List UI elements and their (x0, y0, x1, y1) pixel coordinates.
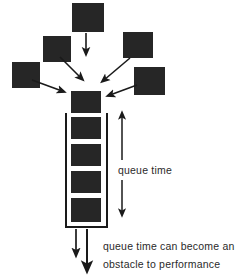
source-box-lower-right (134, 67, 165, 95)
obstacle-caption-line-2: obstacle to performance (103, 258, 220, 271)
queue-time-diagram: queue time queue time can become an obst… (0, 0, 252, 279)
source-box-upper-left (43, 36, 71, 62)
source-box-top (72, 3, 104, 32)
queue-time-label: queue time (118, 164, 172, 177)
obstacle-caption-line-1: queue time can become an (103, 240, 234, 253)
feed-arrow-from-lower-right (110, 85, 137, 95)
diagram-canvas (0, 0, 252, 279)
source-box-upper-right (123, 32, 153, 58)
queue-item-4 (71, 198, 101, 222)
queue-group (66, 91, 107, 227)
source-box-far-left (12, 62, 40, 88)
feed-arrow-from-upper-right (104, 58, 130, 80)
queue-item-1 (71, 117, 101, 139)
output-arrows-group (76, 229, 87, 267)
queue-item-2 (71, 144, 101, 166)
queue-head-box (71, 91, 101, 113)
queue-item-3 (71, 171, 101, 193)
